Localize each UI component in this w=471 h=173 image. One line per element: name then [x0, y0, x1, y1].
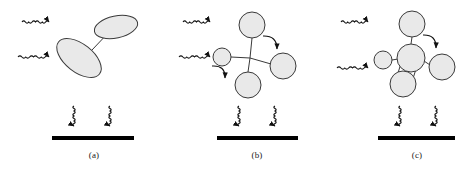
outgoing-arrow-right [274, 106, 276, 126]
sphere-left [374, 51, 392, 69]
sphere-top [399, 11, 425, 37]
sphere-bottom [390, 71, 416, 97]
ellipse-lower [50, 31, 108, 85]
panel-caption-a: (a) [64, 150, 124, 160]
incoming-arrow-top [183, 21, 210, 23]
internal-arrow-upper-right [423, 35, 436, 48]
panel-a [18, 12, 140, 140]
incoming-arrow-bottom [18, 56, 49, 58]
bond-center-right [250, 58, 271, 64]
panels-group [18, 11, 455, 140]
substrate-bar [378, 136, 455, 140]
sphere-center [397, 44, 425, 72]
panel-caption-c: (c) [387, 150, 447, 160]
incoming-arrow-top [22, 21, 49, 23]
ellipse-upper [92, 12, 140, 43]
bond-center-left [231, 57, 250, 58]
panel-b [179, 12, 298, 140]
outgoing-arrow-left [73, 106, 75, 126]
sphere-right [270, 53, 296, 79]
panel-caption-b: (b) [227, 150, 287, 160]
sphere-bottom [235, 72, 261, 98]
incoming-arrow-bottom [179, 56, 210, 58]
bond-center-bottom [248, 58, 250, 72]
internal-arrow-lower-left [212, 66, 225, 78]
outgoing-arrow-left [399, 106, 401, 126]
sphere-left [213, 48, 231, 66]
outgoing-arrow-right [435, 106, 437, 126]
bond-center-top [250, 38, 252, 58]
panel-c [337, 11, 455, 140]
incoming-arrow-top [341, 21, 368, 23]
bond-center-top [411, 37, 412, 44]
substrate-bar [52, 136, 134, 140]
incoming-arrow-bottom [337, 67, 368, 69]
outgoing-arrow-right [109, 106, 111, 126]
sphere-top [239, 12, 265, 38]
figure-canvas [0, 0, 471, 173]
sphere-right [429, 54, 455, 80]
outgoing-arrow-left [238, 106, 240, 126]
internal-arrow-upper-right [263, 36, 277, 49]
substrate-bar [217, 136, 298, 140]
